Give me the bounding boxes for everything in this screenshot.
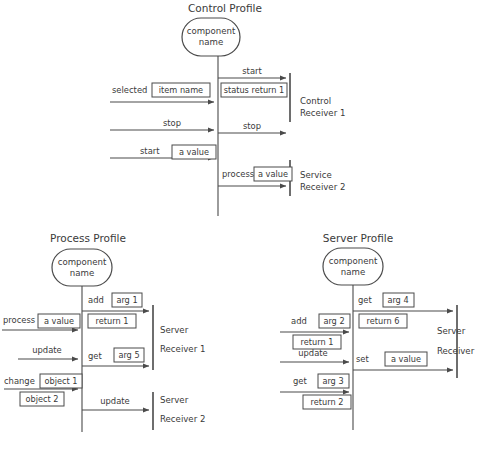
server-profile-title: Server Profile xyxy=(323,232,393,244)
profile-server: Server Profile component name Server Rec… xyxy=(280,232,475,430)
server-component-line1: component xyxy=(329,256,378,266)
process-receiver2-label-line1: Server xyxy=(160,395,189,405)
server-out-arg-1: arg 4 xyxy=(387,295,408,305)
server-component-line2: name xyxy=(341,267,365,277)
server-in-label-1: add xyxy=(291,316,307,326)
profile-process: Process Profile component name Server Re… xyxy=(2,232,205,432)
server-receiver-label-line2: Receiver xyxy=(437,346,475,356)
server-out-return-1: return 6 xyxy=(367,316,400,326)
server-in-arg-1: arg 2 xyxy=(323,316,344,326)
server-out-label-2: set xyxy=(356,354,370,364)
process-in-label-3: change xyxy=(4,376,35,386)
control-out-label-1: start xyxy=(242,66,262,76)
control-out-label-2: stop xyxy=(243,121,261,131)
process-in-arg-3: object 1 xyxy=(44,376,77,386)
sequence-diagram-canvas: Control Profile component name Control R… xyxy=(0,0,482,461)
process-receiver1-label-line1: Server xyxy=(160,325,189,335)
control-in-arg-1: item name xyxy=(159,85,203,95)
control-in-label-2: stop xyxy=(163,118,181,128)
server-in-label-3: get xyxy=(293,376,307,386)
profile-control: Control Profile component name Control R… xyxy=(110,2,345,216)
server-receiver-label-line1: Server xyxy=(437,326,466,336)
control-receiver2-label-line1: Service xyxy=(300,170,332,180)
process-out-label-2: get xyxy=(88,351,102,361)
process-in-return-3: object 2 xyxy=(25,394,58,404)
process-receiver2-label-line2: Receiver 2 xyxy=(160,414,205,424)
control-receiver1-label-line1: Control xyxy=(300,96,331,106)
process-out-arg-1: arg 1 xyxy=(116,295,137,305)
process-in-label-2: update xyxy=(32,345,62,355)
server-in-label-2: update xyxy=(298,348,328,358)
process-receiver1-label-line2: Receiver 1 xyxy=(160,344,205,354)
control-component-line2: name xyxy=(199,37,223,47)
control-receiver1-label-line2: Receiver 1 xyxy=(300,108,345,118)
control-in-label-3: start xyxy=(140,146,160,156)
control-out-arg-3: a value xyxy=(258,169,288,179)
diagram-svg: Control Profile component name Control R… xyxy=(0,0,482,461)
control-out-return-1: status return 1 xyxy=(224,85,285,95)
control-in-arg-3: a value xyxy=(179,147,209,157)
process-component-line1: component xyxy=(58,257,107,267)
control-in-label-1: selected xyxy=(112,85,147,95)
server-in-return-1: return 1 xyxy=(301,337,334,347)
control-component-line1: component xyxy=(187,26,236,36)
process-out-label-1: add xyxy=(88,295,104,305)
process-component-line2: name xyxy=(70,268,94,278)
control-out-label-3: process xyxy=(222,169,254,179)
control-profile-title: Control Profile xyxy=(188,2,262,14)
process-profile-title: Process Profile xyxy=(50,232,126,244)
server-in-return-3: return 2 xyxy=(311,397,344,407)
process-in-arg-1: a value xyxy=(44,316,74,326)
process-out-label-3: update xyxy=(100,396,130,406)
process-out-return-1: return 1 xyxy=(96,316,129,326)
server-in-arg-3: arg 3 xyxy=(322,376,343,386)
server-out-arg-2: a value xyxy=(391,354,421,364)
server-out-label-1: get xyxy=(358,295,372,305)
process-in-label-1: process xyxy=(3,315,35,325)
process-out-arg-2: arg 5 xyxy=(118,350,139,360)
control-receiver2-label-line2: Receiver 2 xyxy=(300,182,345,192)
